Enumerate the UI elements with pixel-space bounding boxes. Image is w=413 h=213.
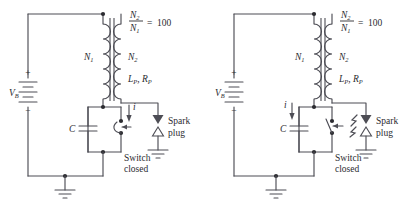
spark-arc-upper-right: [351, 115, 357, 126]
current-arrow-left: [126, 105, 131, 122]
secondary-coil-left: [114, 14, 121, 103]
circuit-diagram-right: VB + − N1 N2 LP, RP N2: [206, 0, 413, 213]
turns-ratio-right: N2 N1 = 100: [340, 10, 383, 34]
circuit-svg-right: VB + − N1 N2 LP, RP N2: [206, 0, 413, 213]
ground-spark-plug-left: [148, 150, 168, 158]
spark-plug-upper-triangle-right: [361, 115, 372, 124]
secondary-coil-label-left: N2: [127, 52, 138, 63]
switch-left[interactable]: [114, 119, 131, 135]
turns-ratio-numerator-left: N2: [129, 10, 140, 21]
primary-coil-left: [103, 14, 111, 107]
spark-plug-lower-triangle-right: [361, 127, 372, 136]
spark-plug-left: [153, 115, 164, 150]
turns-ratio-equals-right: =: [358, 18, 363, 28]
current-arrow-right: [289, 103, 294, 120]
capacitor-label-left: C: [69, 124, 76, 134]
primary-coil-label-right: N1: [294, 52, 305, 63]
switch-state-caption-line1-right: Switch: [335, 153, 362, 163]
spark-plug-label-line2-right: plug: [376, 128, 393, 138]
primary-coil-right: [314, 14, 322, 107]
wire-secondary-to-plug-left: [121, 103, 158, 115]
spark-plug-lower-triangle-left: [153, 127, 164, 136]
current-label-right: i: [284, 100, 287, 110]
junction-dot-top-right: [312, 12, 316, 16]
battery-symbol: [19, 82, 37, 102]
source-label-right: VB: [215, 88, 225, 99]
switch-state-caption-line1-left: Switch: [124, 153, 151, 163]
wire-secondary-to-plug-right: [332, 103, 366, 115]
switch-state-caption-line2-right: closed: [335, 164, 360, 174]
ignition-circuit-figure: VB + − N1 N2 LP, RP: [0, 0, 413, 213]
ground-main-left: [55, 174, 75, 198]
switch-state-caption-line2-left: closed: [124, 164, 149, 174]
spark-plug-right: [350, 115, 372, 150]
switch-contact-upper-right: [330, 119, 334, 123]
turns-ratio-numerator-right: N2: [340, 10, 351, 21]
spark-plug-upper-triangle-left: [153, 115, 164, 124]
spark-plug-label-line1-right: Spark: [376, 116, 398, 126]
junction-dot-top-left: [101, 12, 105, 16]
switch-right[interactable]: [326, 119, 343, 135]
turns-ratio-left: N2 N1 = 100: [129, 10, 172, 34]
spark-plug-label-line1-left: Spark: [168, 116, 190, 126]
turns-ratio-value-left: 100: [157, 18, 172, 28]
turns-ratio-value-right: 100: [368, 18, 383, 28]
switch-contact-upper-left: [119, 119, 123, 123]
secondary-coil-right: [325, 14, 333, 103]
ground-main-right: [266, 174, 286, 198]
polarity-plus-right: +: [231, 68, 236, 78]
spark-plug-label-line2-left: plug: [168, 128, 185, 138]
circuit-diagram-left: VB + − N1 N2 LP, RP: [0, 0, 207, 213]
junction-dot-block-top-left: [101, 105, 105, 109]
secondary-params-label-right: LP, RP: [338, 74, 363, 85]
primary-coil-label-left: N1: [83, 52, 94, 63]
circuit-svg-left: VB + − N1 N2 LP, RP: [0, 0, 207, 213]
secondary-params-label-left: LP, RP: [127, 74, 152, 85]
polarity-plus-left: +: [25, 68, 30, 78]
secondary-coil-label-right: N2: [338, 52, 349, 63]
capacitor-label-right: C: [280, 124, 287, 134]
turns-ratio-equals-left: =: [147, 18, 152, 28]
battery-symbol-right: [225, 82, 243, 102]
polarity-minus-right: −: [231, 106, 236, 116]
turns-ratio-denominator-left: N1: [129, 23, 140, 34]
polarity-minus-left: −: [25, 106, 30, 116]
spark-arc-lower-right: [350, 127, 356, 137]
turns-ratio-denominator-right: N1: [340, 23, 351, 34]
junction-dot-block-top-right: [312, 105, 316, 109]
current-label-left: i: [133, 102, 136, 112]
source-label-left: VB: [9, 88, 19, 99]
